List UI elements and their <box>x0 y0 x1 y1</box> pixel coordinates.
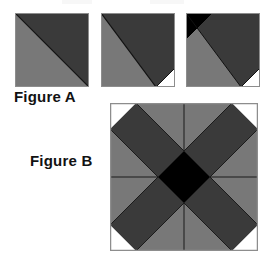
figure-a-step-3 <box>186 13 260 87</box>
figure-a-step-1 <box>15 13 89 87</box>
figure-b-block <box>110 103 258 251</box>
figure-a-label: Figure A <box>14 88 76 105</box>
figure-a-step-2 <box>101 13 175 87</box>
scan-artifact-top-right <box>150 0 184 4</box>
figure-canvas: Figure A Figure B <box>0 0 268 259</box>
figure-b-label: Figure B <box>30 152 92 169</box>
scan-artifact-top <box>62 0 92 4</box>
